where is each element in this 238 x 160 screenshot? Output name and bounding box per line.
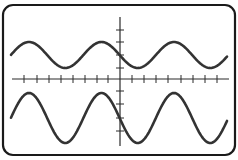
oscilloscope-display bbox=[0, 0, 238, 160]
